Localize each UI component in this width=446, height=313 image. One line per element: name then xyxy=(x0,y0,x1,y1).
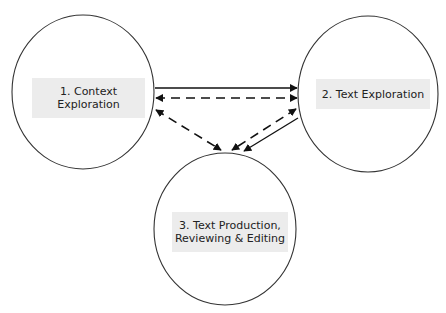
node-3-label: 3. Text Production, Reviewing & Editing xyxy=(172,212,288,252)
node-2-label-line-1: 2. Text Exploration xyxy=(322,88,424,101)
node-1-label-line-1: 1. Context xyxy=(60,85,117,98)
node-1-label: 1. Context Exploration xyxy=(32,78,145,118)
node-2-label: 2. Text Exploration xyxy=(316,79,430,109)
node-1-label-line-2: Exploration xyxy=(57,98,120,111)
edge-1-3-dashed-arrow xyxy=(156,110,221,150)
node-3-label-line-2: Reviewing & Editing xyxy=(175,232,285,245)
node-3-label-line-1: 3. Text Production, xyxy=(179,219,281,232)
process-diagram xyxy=(0,0,446,313)
edge-2-3-dashed-arrow xyxy=(232,109,296,150)
edge-2-to-3-solid-arrow xyxy=(244,118,298,151)
